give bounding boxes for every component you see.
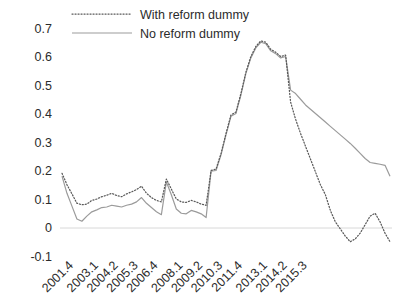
y-axis-tick-label: 0.5 bbox=[35, 79, 52, 93]
y-axis-tick-label: 0.2 bbox=[35, 164, 52, 178]
x-axis-tick-labels: 2001.42003.12004.22005.32006.42008.12009… bbox=[39, 258, 310, 295]
y-axis-tick-label: 0.7 bbox=[35, 22, 52, 36]
y-axis-tick-labels: 0.70.60.50.40.30.20.10-0.1 bbox=[30, 22, 52, 264]
legend-label: No reform dummy bbox=[140, 27, 241, 41]
y-axis-tick-label: 0.4 bbox=[35, 107, 52, 121]
y-axis-tick-label: 0.6 bbox=[35, 50, 52, 64]
chart-container: 0.70.60.50.40.30.20.10-0.1 2001.42003.12… bbox=[0, 0, 400, 298]
legend-label: With reform dummy bbox=[140, 8, 250, 22]
data-series-group bbox=[62, 41, 390, 242]
y-axis-tick-label: 0.3 bbox=[35, 136, 52, 150]
y-axis-tick-label: 0 bbox=[45, 221, 52, 235]
y-axis-tick-label: 0.1 bbox=[35, 193, 52, 207]
series-line-no-reform-dummy bbox=[62, 42, 390, 221]
y-axis-tick-label: -0.1 bbox=[30, 250, 52, 264]
series-line-with-reform-dummy bbox=[62, 41, 390, 242]
line-chart: 0.70.60.50.40.30.20.10-0.1 2001.42003.12… bbox=[0, 0, 400, 298]
chart-legend: With reform dummyNo reform dummy bbox=[72, 8, 250, 41]
